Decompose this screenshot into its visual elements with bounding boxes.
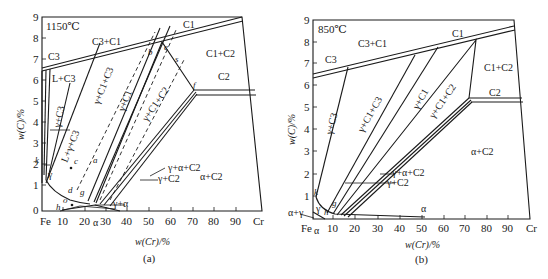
svg-text:80: 80 [208,215,220,227]
svg-text:γ+C1: γ+C1 [115,88,134,113]
svg-text:γ+C1+C3: γ+C1+C3 [355,95,385,135]
svg-text:C3: C3 [325,54,337,65]
svg-text:Fe: Fe [301,222,312,234]
panel-b: 9 8 7 6 5 4 3 2 1 Fe 10 20 30 40 50 60 7… [286,14,537,266]
panel-a-temperature: 1150℃ [46,20,80,32]
svg-text:γ+α+C2: γ+α+C2 [167,162,201,173]
svg-text:γ+α+C2: γ+α+C2 [391,167,425,178]
svg-text:C1+C2: C1+C2 [484,62,513,73]
panel-a-region-labels: C3+C1 C1 C3 L+C3 C1+C2 C2 γ+C2 γ+α+C2 α+… [47,19,235,228]
svg-text:90: 90 [502,222,514,234]
svg-text:C2: C2 [218,71,230,82]
svg-text:70: 70 [187,215,199,227]
svg-text:Cr: Cr [526,222,537,234]
panel-a-caption: (a) [143,252,156,265]
svg-text:30: 30 [372,222,384,234]
svg-text:0: 0 [33,204,39,216]
svg-text:10: 10 [57,215,69,227]
svg-text:40: 40 [394,222,406,234]
svg-text:γ: γ [47,169,53,180]
svg-text:1: 1 [33,179,39,191]
svg-text:8: 8 [33,32,39,44]
svg-text:30: 30 [100,215,112,227]
svg-text:50: 50 [416,222,428,234]
svg-text:10: 10 [327,222,339,234]
c3-line-2 [44,70,46,175]
panel-b-frame [313,20,530,219]
svg-text:d: d [68,185,73,195]
panel-b-y-ticks [313,42,317,196]
svg-text:c: c [74,156,78,166]
svg-text:γ: γ [315,203,321,214]
panel-b-rotated-region-labels: γ+C3 γ+C1+C3 γ+C1 γ+C1+C2 [323,82,458,137]
svg-text:f: f [193,80,197,90]
svg-text:L+C3: L+C3 [52,73,75,84]
svg-text:γ+C3: γ+C3 [51,105,66,130]
svg-text:C1: C1 [452,28,464,39]
svg-text:7: 7 [33,53,39,65]
point-c-marker [70,167,73,170]
panel-b-x-tick-labels: Fe 10 20 30 40 50 60 70 80 90 Cr [301,222,537,234]
panel-b-x-axis-label: w(Cr)/% [405,239,440,251]
panel-a-x-tick-labels: Fe 10 20 30 40 50 60 70 80 90 Cr [40,215,264,227]
svg-text:60: 60 [438,222,450,234]
svg-text:50: 50 [143,215,155,227]
b-g-c1-line [333,47,438,214]
svg-text:o: o [63,195,68,205]
svg-text:g: g [80,187,85,197]
svg-text:α+C2: α+C2 [471,146,494,157]
svg-text:γ+C1+C2: γ+C1+C2 [426,82,458,121]
svg-text:C2: C2 [489,87,501,98]
svg-text:e: e [164,42,168,52]
panel-a: 9 8 7 6 5 4 3 2 1 0 Fe 10 20 30 40 50 60 [15,11,264,265]
svg-text:α: α [421,203,427,214]
svg-text:80: 80 [481,222,493,234]
svg-text:8: 8 [304,36,310,48]
svg-text:20: 20 [79,215,91,227]
svg-text:7: 7 [304,57,310,69]
svg-text:γ+α: γ+α [112,198,129,209]
svg-text:γ+C2: γ+C2 [386,177,409,188]
svg-text:γ+C1+C3: γ+C1+C3 [90,65,115,106]
panel-a-y-axis-label: w(C)/% [15,109,27,140]
svg-text:9: 9 [304,14,310,26]
svg-text:60: 60 [165,215,177,227]
svg-text:5: 5 [33,95,39,107]
svg-text:b: b [148,47,153,57]
point-o-marker [71,204,74,207]
svg-text:6: 6 [33,74,39,86]
panel-b-y-tick-labels: 9 8 7 6 5 4 3 2 1 [304,14,310,202]
svg-text:g: g [332,198,337,208]
svg-text:Cr: Cr [253,215,264,227]
svg-text:γ+C2: γ+C2 [157,173,180,184]
svg-text:3: 3 [33,137,39,149]
svg-text:a: a [93,155,98,165]
svg-text:C3+C1: C3+C1 [92,36,121,47]
svg-text:α+γ: α+γ [288,207,304,218]
svg-text:5: 5 [304,101,310,113]
svg-text:1: 1 [304,190,310,202]
svg-text:40: 40 [121,215,133,227]
panel-b-temperature: 850℃ [318,23,347,35]
panel-a-x-ticks [63,207,236,211]
panel-b-region-labels: C3+C1 C1 C3 C1+C2 C2 γ+C2 γ+α+C2 α+C2 α+… [288,28,513,236]
panel-b-y-axis-label: w(C)/% [286,114,298,145]
l-c3-boundary [46,69,50,180]
svg-text:2: 2 [304,168,310,180]
svg-text:4: 4 [304,123,310,135]
svg-text:9: 9 [33,11,39,23]
svg-text:γ+C1+C2: γ+C1+C2 [139,85,171,124]
phase-diagrams: 9 8 7 6 5 4 3 2 1 0 Fe 10 20 30 40 50 60 [0,0,548,279]
svg-text:4: 4 [33,116,39,128]
panel-a-x-axis-label: w(Cr)/% [135,236,170,248]
svg-text:α: α [93,217,99,228]
svg-text:α: α [314,225,320,236]
svg-text:α+C2: α+C2 [200,171,223,182]
svg-text:s: s [175,54,179,64]
panel-a-y-tick-labels: 9 8 7 6 5 4 3 2 1 0 [33,11,39,216]
svg-text:h: h [324,207,329,217]
svg-text:C1: C1 [183,19,195,30]
svg-text:70: 70 [459,222,471,234]
svg-text:γ+C1: γ+C1 [410,87,431,112]
svg-text:Fe: Fe [40,215,51,227]
